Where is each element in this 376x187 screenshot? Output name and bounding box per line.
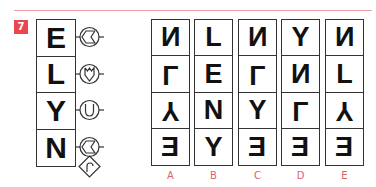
option-cell: L (152, 56, 189, 92)
option-cell: N (152, 20, 189, 56)
option-cell: Y (282, 20, 319, 56)
circle-u-icon (76, 101, 104, 120)
option-cell: N (195, 93, 232, 129)
circle-chevron-left-icon (76, 28, 104, 47)
source-letter-stack: E L Y N (36, 19, 76, 167)
option-cell: E (282, 129, 319, 165)
circle-shield-icon (76, 65, 104, 84)
option-c[interactable]: N L Y E (238, 19, 277, 166)
option-a-label[interactable]: A (151, 170, 190, 181)
option-cell: E (239, 129, 276, 165)
option-cell: L (282, 93, 319, 129)
option-cell: N (282, 56, 319, 92)
option-d[interactable]: Y N L E (281, 19, 320, 166)
option-cell: L (195, 20, 232, 56)
option-c-label[interactable]: C (238, 170, 277, 181)
option-cell: E (152, 129, 189, 165)
option-e-label[interactable]: E (325, 170, 364, 181)
source-cell: N (37, 130, 75, 167)
option-cell: E (326, 129, 363, 165)
source-cell: L (37, 57, 75, 94)
option-cell: N (239, 20, 276, 56)
header-rule (14, 10, 372, 11)
option-a[interactable]: N L Y E (151, 19, 190, 166)
option-b-label[interactable]: B (194, 170, 233, 181)
option-cell: L (239, 56, 276, 92)
option-cell: L (326, 56, 363, 92)
option-cell: Y (195, 129, 232, 165)
option-cell: Y (239, 93, 276, 129)
option-cell: E (195, 56, 232, 92)
source-cell: E (37, 20, 75, 57)
diamond-hook-icon (79, 156, 100, 177)
option-cell: N (326, 20, 363, 56)
circle-chevron-left-icon (76, 138, 104, 157)
question-number-badge: 7 (14, 20, 28, 34)
option-e[interactable]: N L Y E (325, 19, 364, 166)
transform-symbols (76, 19, 116, 187)
source-cell: Y (37, 93, 75, 130)
option-cell: Y (326, 93, 363, 129)
option-d-label[interactable]: D (281, 170, 320, 181)
option-b[interactable]: L E N Y (194, 19, 233, 166)
option-cell: Y (152, 93, 189, 129)
